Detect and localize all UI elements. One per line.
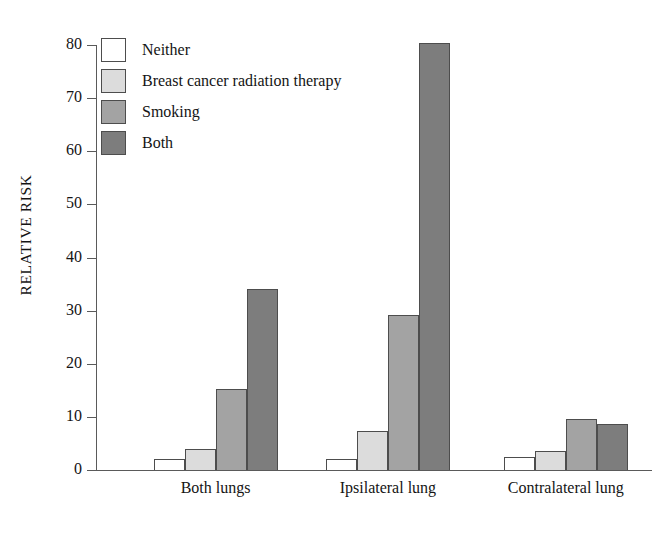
bar[interactable] <box>388 315 419 470</box>
y-tick-label: 20 <box>66 353 82 373</box>
y-tick: 30 <box>38 311 96 312</box>
y-tick-label: 50 <box>66 193 82 213</box>
legend-label: Both <box>142 134 173 152</box>
bar[interactable] <box>535 451 566 470</box>
y-tick: 0 <box>38 470 96 471</box>
y-tick-label: 30 <box>66 300 82 320</box>
legend-swatch <box>101 69 126 93</box>
y-axis-line <box>96 45 97 470</box>
bar[interactable] <box>216 389 247 470</box>
y-tick-mark <box>87 470 96 471</box>
x-axis-category-label: Contralateral lung <box>508 479 624 497</box>
y-tick-mark <box>87 417 96 418</box>
y-tick-mark <box>87 98 96 99</box>
legend-swatch <box>101 38 126 62</box>
y-tick-label: 10 <box>66 406 82 426</box>
y-tick: 50 <box>38 204 96 205</box>
y-tick-mark <box>87 311 96 312</box>
x-axis-line <box>96 470 652 471</box>
y-axis-title: RELATIVE RISK <box>14 0 38 470</box>
bar[interactable] <box>185 449 216 470</box>
bar-group: Ipsilateral lung <box>326 45 450 470</box>
y-tick-label: 0 <box>74 459 82 479</box>
bar[interactable] <box>247 289 278 470</box>
bar-group: Contralateral lung <box>504 45 628 470</box>
y-tick: 80 <box>38 45 96 46</box>
chart-legend: NeitherBreast cancer radiation therapySm… <box>101 38 341 155</box>
y-axis-title-text: RELATIVE RISK <box>17 174 35 295</box>
bar[interactable] <box>419 43 450 470</box>
bar[interactable] <box>326 459 357 470</box>
bar[interactable] <box>504 457 535 470</box>
x-axis-category-label: Ipsilateral lung <box>340 479 436 497</box>
bar[interactable] <box>597 424 628 470</box>
y-tick: 70 <box>38 98 96 99</box>
legend-swatch <box>101 131 126 155</box>
bar[interactable] <box>357 431 388 470</box>
y-tick-label: 60 <box>66 140 82 160</box>
y-tick: 60 <box>38 151 96 152</box>
bar[interactable] <box>566 419 597 470</box>
y-tick-label: 40 <box>66 247 82 267</box>
legend-item[interactable]: Both <box>101 131 341 155</box>
y-tick: 10 <box>38 417 96 418</box>
legend-label: Neither <box>142 41 190 59</box>
bar-chart: RELATIVE RISK 01020304050607080 Both lun… <box>0 0 667 535</box>
y-tick-mark <box>87 364 96 365</box>
bar[interactable] <box>154 459 185 470</box>
legend-item[interactable]: Neither <box>101 38 341 62</box>
y-tick-mark <box>87 151 96 152</box>
y-tick: 20 <box>38 364 96 365</box>
y-tick-label: 80 <box>66 34 82 54</box>
bars <box>504 45 628 470</box>
x-axis-category-label: Both lungs <box>181 479 251 497</box>
y-tick-label: 70 <box>66 87 82 107</box>
bars <box>326 45 450 470</box>
legend-swatch <box>101 100 126 124</box>
legend-label: Smoking <box>142 103 200 121</box>
legend-item[interactable]: Breast cancer radiation therapy <box>101 69 341 93</box>
y-tick-mark <box>87 204 96 205</box>
legend-label: Breast cancer radiation therapy <box>142 72 341 90</box>
y-tick-mark <box>87 45 96 46</box>
y-tick: 40 <box>38 258 96 259</box>
y-tick-mark <box>87 258 96 259</box>
legend-item[interactable]: Smoking <box>101 100 341 124</box>
